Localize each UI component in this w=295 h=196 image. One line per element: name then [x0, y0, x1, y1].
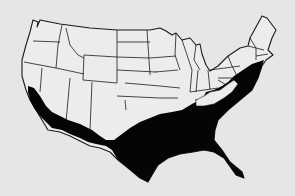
us-map: Contiguous United States with state boun… — [0, 0, 295, 196]
map-svg — [0, 0, 295, 196]
